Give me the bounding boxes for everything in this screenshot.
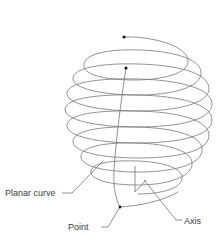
planar-curve-leader bbox=[62, 161, 103, 193]
planar-curve-label: Planar curve bbox=[5, 188, 56, 198]
spiral-rings bbox=[65, 50, 212, 194]
planar-meridian-curve bbox=[114, 68, 178, 207]
point-dot bbox=[119, 206, 122, 209]
spiral-start-arc bbox=[124, 37, 188, 80]
axis-label: Axis bbox=[184, 216, 201, 226]
curve-top-dot bbox=[124, 66, 127, 69]
spiral-start-dot bbox=[122, 35, 125, 38]
point-label: Point bbox=[68, 222, 89, 232]
point-leader bbox=[101, 207, 120, 227]
diagram-canvas: Planar curve Point Axis bbox=[0, 0, 217, 236]
axis-symbol bbox=[135, 166, 146, 192]
spiral-sphere-drawing bbox=[0, 0, 217, 236]
